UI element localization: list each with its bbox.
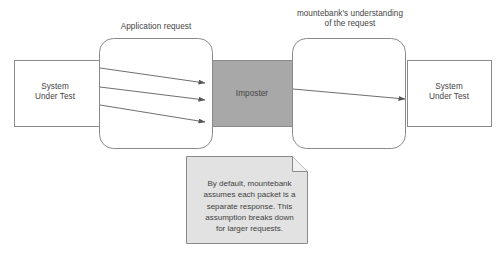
note-folded-corner-icon [293,157,308,172]
caption-mountebank-understanding: mountebank's understanding of the reques… [280,9,420,30]
system-under-test-left-label: System Under Test [14,82,96,103]
diagram-canvas: Application request mountebank's underst… [0,0,501,262]
imposter-label: Imposter [213,89,291,99]
note-text: By default, mountebank assumes each pack… [190,178,309,235]
caption-application-request: Application request [100,22,212,32]
system-under-test-right-label: System Under Test [408,82,490,103]
